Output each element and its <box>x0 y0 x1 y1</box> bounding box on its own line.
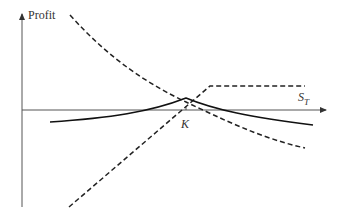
payoff-chart: Profit K ST <box>0 0 344 218</box>
y-axis-label: Profit <box>28 8 56 22</box>
x-axis-label-sub: T <box>304 97 310 107</box>
strike-label: K <box>180 117 190 131</box>
x-axis-label: ST <box>298 90 310 107</box>
series-rising-flat-dashed <box>69 86 305 207</box>
